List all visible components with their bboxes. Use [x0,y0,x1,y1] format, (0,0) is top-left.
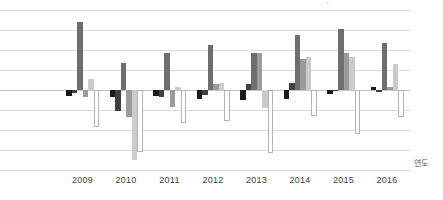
bar-group-2009 [66,0,99,200]
series-2-darkest-gray-bar [159,90,165,97]
series-6-white-outline-bar [181,90,187,123]
series-5-light-gray-bar [219,83,225,90]
series-3-dark-gray-bar [121,63,127,90]
series-4-medium-gray-bar [257,53,263,90]
series-5-light-gray-bar [349,57,355,90]
x-tick-label: 2012 [193,175,233,185]
x-tick-label: 2011 [150,175,190,185]
x-tick-label: 2015 [324,175,364,185]
series-2-darkest-gray-bar [376,90,382,92]
series-5-light-gray-bar [393,64,399,90]
series-3-dark-gray-bar [382,43,388,90]
bar-group-2014 [284,0,317,200]
bar-group-2012 [197,0,230,200]
series-1-black-bar [284,90,290,99]
x-tick-label: 2013 [237,175,277,185]
series-6-white-outline-bar [224,90,230,121]
series-6-white-outline-bar [94,90,100,127]
series-5-light-gray-bar [88,79,94,90]
bar-chart: 20092010201120122013201420152016 연도 ' [0,0,443,200]
bar-group-2013 [240,0,273,200]
series-6-white-outline-bar [355,90,361,134]
x-tick-label: 2016 [367,175,407,185]
series-6-white-outline-bar [398,90,404,117]
plot-area: 20092010201120122013201420152016 [0,0,443,200]
series-6-white-outline-bar [137,90,143,152]
bar-group-2010 [110,0,143,200]
series-4-medium-gray-bar [83,90,89,97]
bar-group-2016 [371,0,404,200]
series-2-darkest-gray-bar [202,90,208,95]
stray-artifact-mark: ' [327,0,329,9]
series-3-dark-gray-bar [77,22,83,90]
series-6-white-outline-bar [311,90,317,116]
series-2-darkest-gray-bar [115,90,121,111]
x-tick-label: 2010 [106,175,146,185]
series-4-medium-gray-bar [170,90,176,107]
x-tick-label: 2014 [280,175,320,185]
series-3-dark-gray-bar [164,53,170,90]
x-axis-title: 연도 [414,157,428,168]
series-1-black-bar [240,90,246,100]
x-tick-label: 2009 [63,175,103,185]
series-6-white-outline-bar [268,90,274,153]
series-5-light-gray-bar [306,57,312,90]
bar-group-2011 [153,0,186,200]
bar-group-2015 [327,0,360,200]
series-2-darkest-gray-bar [333,90,339,91]
series-2-darkest-gray-bar [72,90,78,93]
